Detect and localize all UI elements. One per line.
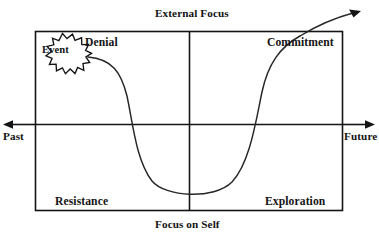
quadrant-label-denial: Denial: [85, 37, 118, 49]
axis-label-past: Past: [3, 131, 24, 142]
transition-curve-diagram: External Focus Focus on Self Past Future…: [0, 0, 379, 234]
event-marker-label: Event: [42, 45, 69, 56]
quadrant-label-exploration: Exploration: [265, 196, 325, 208]
quadrant-label-commitment: Commitment: [267, 37, 334, 49]
arrow-right-icon: [342, 120, 375, 128]
axis-label-focus-on-self: Focus on Self: [155, 219, 220, 230]
axis-label-future: Future: [344, 131, 377, 142]
transition-curve: [88, 36, 300, 194]
arrow-left-icon: [3, 120, 36, 128]
axis-label-external-focus: External Focus: [155, 8, 229, 19]
quadrant-label-resistance: Resistance: [55, 196, 108, 208]
curve-exit-tail: [300, 13, 353, 36]
